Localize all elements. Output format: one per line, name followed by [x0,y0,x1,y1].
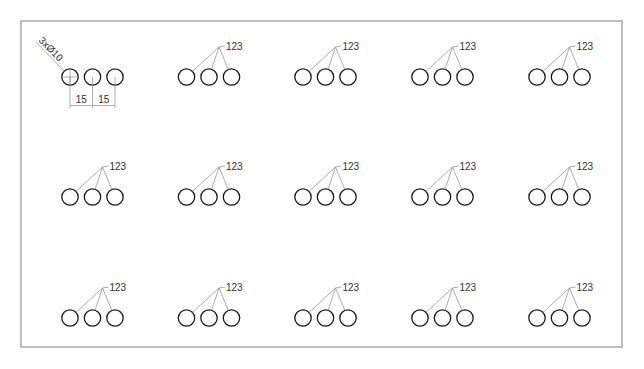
leader-label: 123 [343,161,360,172]
leader-label: 123 [343,41,360,52]
drawing-canvas: 15153xØ101231231231231231231231231231231… [0,0,644,369]
leader-label: 123 [460,161,477,172]
leader-label: 123 [460,41,477,52]
leader-label: 123 [110,161,127,172]
leader-label: 123 [226,41,243,52]
dimension-text: 15 [76,94,88,105]
leader-label: 123 [460,282,477,293]
leader-label: 123 [226,282,243,293]
leader-label: 123 [343,282,360,293]
leader-label: 123 [577,161,594,172]
dimension-text: 15 [98,94,110,105]
leader-label: 123 [577,282,594,293]
leader-label: 123 [110,282,127,293]
leader-label: 123 [577,41,594,52]
leader-label: 123 [226,161,243,172]
